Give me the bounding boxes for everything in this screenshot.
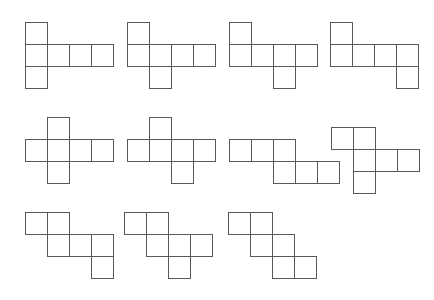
cube-net-3 [229, 22, 319, 90]
net-square [296, 162, 318, 184]
net-square [251, 235, 273, 257]
net-square [169, 257, 191, 279]
net-square [92, 257, 114, 279]
net-square [194, 45, 216, 67]
cube-net-1 [25, 22, 115, 90]
net-square [354, 172, 376, 194]
net-square [230, 23, 252, 45]
cube-net-canvas [25, 22, 115, 90]
net-square [274, 140, 296, 162]
net-square [172, 45, 194, 67]
net-square [274, 67, 296, 89]
net-square [70, 45, 92, 67]
net-square [26, 23, 48, 45]
net-square [48, 45, 70, 67]
net-square [26, 67, 48, 89]
net-square [48, 118, 70, 140]
net-square [48, 213, 70, 235]
net-square [191, 235, 213, 257]
cube-net-8 [331, 127, 421, 195]
net-square [353, 45, 375, 67]
cube-net-canvas [228, 212, 318, 280]
net-square [150, 118, 172, 140]
net-square [274, 45, 296, 67]
net-square [92, 235, 114, 257]
net-square [376, 150, 398, 172]
net-square [230, 140, 252, 162]
net-square [295, 257, 317, 279]
cube-net-9 [25, 212, 115, 280]
net-square [70, 140, 92, 162]
cube-net-canvas [124, 212, 214, 280]
net-square [230, 45, 252, 67]
net-square [169, 235, 191, 257]
net-square [150, 45, 172, 67]
net-square [92, 140, 114, 162]
net-square [331, 45, 353, 67]
net-square [48, 162, 70, 184]
net-square [150, 140, 172, 162]
cube-net-canvas [25, 212, 115, 280]
net-square [128, 45, 150, 67]
cube-net-canvas [229, 22, 319, 90]
net-square [70, 235, 92, 257]
net-square [296, 45, 318, 67]
net-square [229, 213, 251, 235]
net-square [147, 213, 169, 235]
cube-net-canvas [331, 127, 421, 195]
cube-net-canvas [229, 139, 341, 185]
net-square [48, 235, 70, 257]
net-square [26, 213, 48, 235]
net-square [252, 140, 274, 162]
cube-net-canvas [127, 117, 217, 185]
net-square [128, 23, 150, 45]
net-square [273, 257, 295, 279]
net-square [354, 128, 376, 150]
cube-net-2 [127, 22, 217, 90]
cube-net-canvas [330, 22, 420, 90]
net-square [147, 235, 169, 257]
net-square [125, 213, 147, 235]
cube-net-11 [228, 212, 318, 280]
cube-net-10 [124, 212, 214, 280]
net-square [397, 67, 419, 89]
net-square [26, 140, 48, 162]
net-square [273, 235, 295, 257]
net-square [26, 45, 48, 67]
net-square [331, 23, 353, 45]
cube-net-canvas [127, 22, 217, 90]
net-square [398, 150, 420, 172]
cube-nets-sheet [0, 0, 434, 300]
cube-net-4 [330, 22, 420, 90]
net-square [397, 45, 419, 67]
net-square [92, 45, 114, 67]
net-square [354, 150, 376, 172]
cube-net-7 [229, 139, 341, 185]
cube-net-6 [127, 117, 217, 185]
cube-net-canvas [25, 117, 115, 185]
net-square [172, 140, 194, 162]
net-square [172, 162, 194, 184]
net-square [194, 140, 216, 162]
cube-net-5 [25, 117, 115, 185]
net-square [48, 140, 70, 162]
net-square [332, 128, 354, 150]
net-square [251, 213, 273, 235]
net-square [252, 45, 274, 67]
net-square [128, 140, 150, 162]
net-square [274, 162, 296, 184]
net-square [150, 67, 172, 89]
net-square [375, 45, 397, 67]
